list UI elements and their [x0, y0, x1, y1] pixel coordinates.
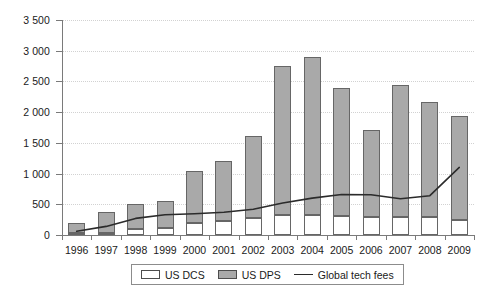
legend-line-icon-global-tech-fees [294, 274, 313, 275]
chart-legend: US DCS US DPS Global tech fees [131, 264, 404, 285]
y-axis-tick-label: 2 500 [0, 76, 50, 86]
legend-label-us-dps: US DPS [242, 269, 281, 281]
x-axis-tick-label: 2009 [439, 244, 479, 256]
y-axis-tick-label: 1 500 [0, 138, 50, 148]
y-axis-tick-label: 0 [0, 230, 50, 240]
y-axis-tick-label: 500 [0, 199, 50, 209]
legend-swatch-icon-us-dcs [141, 270, 160, 279]
y-axis-tick-label: 2 000 [0, 107, 50, 117]
legend-label-us-dcs: US DCS [165, 269, 205, 281]
legend-item-us-dps: US DPS [218, 269, 281, 281]
legend-item-global-tech-fees: Global tech fees [294, 269, 394, 281]
legend-swatch-icon-us-dps [218, 270, 237, 279]
chart-container: 05001 0001 5002 0002 5003 0003 500 19961… [0, 0, 489, 293]
legend-label-global-tech-fees: Global tech fees [318, 269, 394, 281]
y-axis-tick-label: 1 000 [0, 169, 50, 179]
y-axis-tick-label: 3 500 [0, 15, 50, 25]
x-axis-tick-mark [474, 235, 475, 240]
global-tech-fees-line [62, 20, 474, 236]
y-axis-tick-label: 3 000 [0, 46, 50, 56]
legend-item-us-dcs: US DCS [141, 269, 205, 281]
